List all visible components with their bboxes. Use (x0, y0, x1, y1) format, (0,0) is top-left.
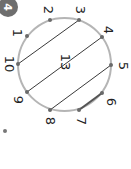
center-label: 13 (58, 54, 73, 71)
label-10: 10 (2, 56, 17, 73)
badge-label: 4 (1, 3, 14, 11)
bullet-dot (3, 129, 7, 133)
label-5: 5 (116, 62, 131, 70)
label-7: 7 (74, 117, 89, 125)
label-6: 6 (104, 98, 119, 106)
point-6 (100, 91, 104, 95)
label-2: 2 (41, 6, 56, 14)
point-3 (77, 18, 81, 22)
circle-chord-diagram: 4 1 2 3 4 5 6 7 8 9 10 13 (0, 0, 131, 169)
point-9 (25, 90, 29, 94)
point-4 (100, 35, 104, 39)
label-1: 1 (10, 29, 25, 37)
question-number-badge: 4 (0, 0, 18, 17)
label-4: 4 (101, 26, 116, 34)
label-9: 9 (11, 96, 26, 104)
point-1 (25, 34, 29, 38)
point-2 (48, 18, 52, 22)
point-5 (109, 63, 113, 67)
label-8: 8 (43, 117, 58, 125)
chord-8-5 (50, 65, 111, 110)
chord-7-6 (79, 93, 102, 110)
point-8 (48, 108, 52, 112)
label-3: 3 (73, 6, 88, 14)
point-7 (77, 108, 81, 112)
